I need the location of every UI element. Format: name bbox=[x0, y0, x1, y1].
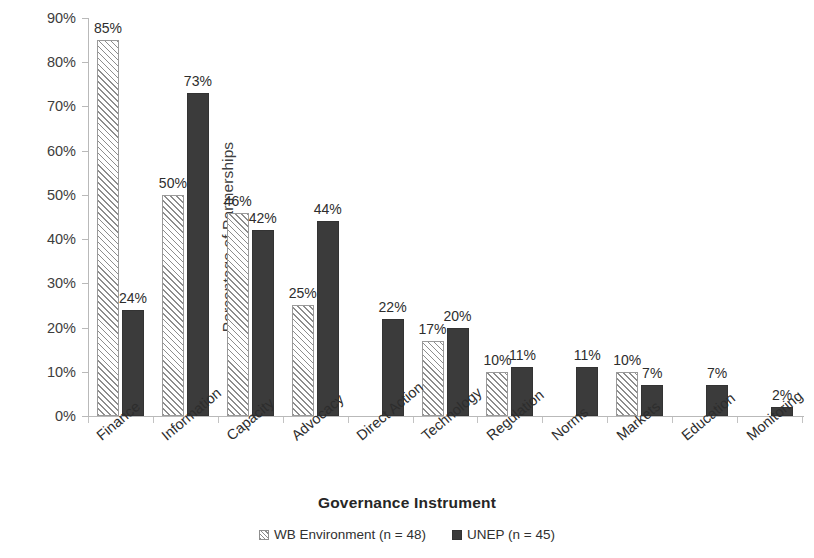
bar-wb-environment bbox=[97, 40, 119, 416]
legend-item-label: UNEP (n = 45) bbox=[467, 527, 555, 542]
bar-wb-environment bbox=[422, 341, 444, 416]
bar-value-label: 22% bbox=[373, 300, 413, 314]
hatched-square-icon bbox=[259, 530, 269, 540]
x-axis-tick-mark bbox=[413, 417, 414, 423]
bar-value-label: 73% bbox=[178, 74, 218, 88]
bar-value-label: 11% bbox=[502, 348, 542, 362]
bar-chart: Percentage of Partnerships 0%10%20%30%40… bbox=[0, 0, 814, 558]
y-axis-tick-label: 0% bbox=[28, 409, 76, 424]
chart-legend: WB Environment (n = 48)UNEP (n = 45) bbox=[0, 527, 814, 542]
legend-item[interactable]: WB Environment (n = 48) bbox=[259, 527, 426, 542]
plot-area: 85%24%50%73%46%42%25%44%22%17%20%10%11%1… bbox=[88, 18, 802, 416]
filled-square-icon bbox=[452, 530, 462, 540]
x-axis-tick-mark bbox=[88, 417, 89, 423]
x-axis-tick-mark bbox=[607, 417, 608, 423]
y-axis-tick-label: 70% bbox=[28, 99, 76, 114]
x-axis-title: Governance Instrument bbox=[0, 494, 814, 512]
x-axis-tick-mark bbox=[737, 417, 738, 423]
x-axis-tick-mark bbox=[153, 417, 154, 423]
x-axis-tick-mark bbox=[477, 417, 478, 423]
bar-value-label: 11% bbox=[567, 348, 607, 362]
bar-wb-environment bbox=[292, 305, 314, 416]
bar-unep bbox=[252, 230, 274, 416]
y-axis-tick-label: 90% bbox=[28, 11, 76, 26]
legend-item-label: WB Environment (n = 48) bbox=[274, 527, 426, 542]
legend-item[interactable]: UNEP (n = 45) bbox=[452, 527, 555, 542]
y-axis-tick-label: 50% bbox=[28, 188, 76, 203]
bar-value-label: 24% bbox=[113, 291, 153, 305]
x-axis-tick-mark bbox=[348, 417, 349, 423]
bar-value-label: 7% bbox=[632, 366, 672, 380]
x-axis-tick-mark bbox=[542, 417, 543, 423]
y-axis-tick-label: 40% bbox=[28, 232, 76, 247]
bar-unep bbox=[317, 221, 339, 416]
x-axis-tick-mark bbox=[802, 417, 803, 423]
y-axis-tick-label: 80% bbox=[28, 55, 76, 70]
bar-value-label: 46% bbox=[218, 194, 258, 208]
bar-value-label: 85% bbox=[88, 21, 128, 35]
bar-wb-environment bbox=[486, 372, 508, 416]
x-axis-tick-mark bbox=[283, 417, 284, 423]
bar-wb-environment bbox=[162, 195, 184, 416]
x-axis-tick-mark bbox=[218, 417, 219, 423]
bar-value-label: 7% bbox=[697, 366, 737, 380]
y-axis-tick-label: 20% bbox=[28, 321, 76, 336]
bar-value-label: 42% bbox=[243, 211, 283, 225]
bar-value-label: 44% bbox=[308, 202, 348, 216]
y-axis-tick-label: 10% bbox=[28, 365, 76, 380]
x-axis-tick-mark bbox=[672, 417, 673, 423]
bar-unep bbox=[187, 93, 209, 416]
y-axis-tick-label: 30% bbox=[28, 276, 76, 291]
y-axis-tick-label: 60% bbox=[28, 144, 76, 159]
bar-wb-environment bbox=[227, 213, 249, 416]
y-axis-title-wrapper: Percentage of Partnerships bbox=[10, 0, 36, 243]
bar-value-label: 20% bbox=[438, 309, 478, 323]
